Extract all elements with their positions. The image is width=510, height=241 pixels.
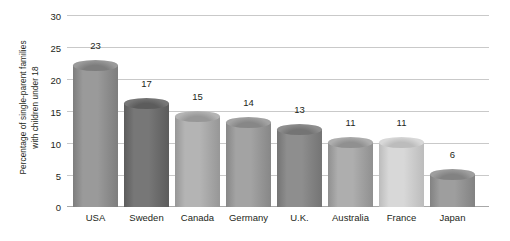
bar-value-label: 17 [124, 78, 169, 89]
y-tick-label-20: 20 [39, 75, 61, 86]
bar-body [73, 65, 118, 207]
bar-slot: 17 [124, 68, 169, 207]
bar-top-ellipse [328, 137, 373, 148]
x-axis-label-canada: Canada [175, 212, 220, 223]
bar-slot: 23 [73, 30, 118, 207]
bar-slot: 15 [175, 81, 220, 207]
x-axis-label-france: France [379, 212, 424, 223]
bar-australia[interactable] [328, 137, 373, 207]
bar-body [175, 116, 220, 207]
bar-value-label: 11 [379, 117, 424, 128]
bar-canada[interactable] [175, 111, 220, 207]
bar-u-k[interactable] [277, 124, 322, 207]
bar-value-label: 15 [175, 91, 220, 102]
y-tick-label-15: 15 [39, 107, 61, 118]
bar-japan[interactable] [430, 169, 475, 207]
bar-body [277, 129, 322, 207]
bar-germany[interactable] [226, 117, 271, 207]
bar-france[interactable] [379, 137, 424, 207]
bar-value-label: 6 [430, 149, 475, 160]
bar-top-ellipse [430, 169, 475, 180]
x-axis-label-germany: Germany [226, 212, 271, 223]
bar-usa[interactable] [73, 60, 118, 207]
y-tick-label-25: 25 [39, 43, 61, 54]
bar-value-label: 23 [73, 40, 118, 51]
y-tick-label-30: 30 [39, 11, 61, 22]
bar-body [226, 122, 271, 207]
y-tick-label-5: 5 [39, 171, 61, 182]
bar-top-ellipse [175, 111, 220, 122]
bar-slot: 14 [226, 87, 271, 207]
bar-value-label: 11 [328, 117, 373, 128]
y-tick-label-10: 10 [39, 139, 61, 150]
bar-top-ellipse [277, 124, 322, 135]
x-axis-label-u-k: U.K. [277, 212, 322, 223]
bar-slot: 6 [430, 139, 475, 207]
x-axis-label-japan: Japan [430, 212, 475, 223]
bar-body [124, 103, 169, 207]
plot-area: 30 25 20 15 10 5 0 231715141311116 [67, 15, 489, 207]
bar-top-ellipse [73, 60, 118, 71]
x-axis-label-sweden: Sweden [124, 212, 169, 223]
bar-sweden[interactable] [124, 98, 169, 207]
y-axis-title-line-1: Percentage of single-parent families [18, 40, 30, 174]
bar-value-label: 14 [226, 97, 271, 108]
bar-top-ellipse [124, 98, 169, 109]
x-axis-label-usa: USA [73, 212, 118, 223]
bar-slot: 11 [328, 107, 373, 207]
bar-slot: 11 [379, 107, 424, 207]
bar-series: 231715141311116 [67, 15, 489, 207]
bar-chart: Percentage of single-parent families wit… [0, 0, 510, 241]
bar-body [379, 142, 424, 207]
bar-top-ellipse [226, 117, 271, 128]
x-axis-label-australia: Australia [328, 212, 373, 223]
bar-value-label: 13 [277, 104, 322, 115]
y-tick-label-0: 0 [39, 202, 61, 213]
bar-body [328, 142, 373, 207]
bar-top-ellipse [379, 137, 424, 148]
x-axis-categories: USASwedenCanadaGermanyU.K.AustraliaFranc… [67, 212, 489, 232]
bar-slot: 13 [277, 94, 322, 207]
